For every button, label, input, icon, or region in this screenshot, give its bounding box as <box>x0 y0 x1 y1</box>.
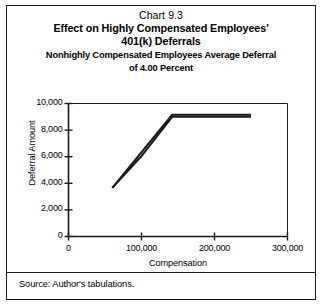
source-divider <box>7 272 315 273</box>
x-tick-label: 300,000 <box>253 243 322 253</box>
chart-number: Chart 9.3 <box>10 9 312 22</box>
y-tick-label: 2,000 <box>9 203 63 213</box>
y-axis-title: Deferral Amount <box>27 103 37 203</box>
chart-title-line1: Effect on Highly Compensated Employees' <box>10 22 312 35</box>
x-axis-title: Compensation <box>68 258 288 268</box>
source-note: Source: Author's tabulations. <box>19 279 134 289</box>
x-tick-label: 200,000 <box>180 243 250 253</box>
chart-figure: Chart 9.3 Effect on Highly Compensated E… <box>0 0 322 306</box>
figure-titles: Chart 9.3 Effect on Highly Compensated E… <box>10 9 312 74</box>
chart-subtitle-line2: of 4.00 Percent <box>10 62 312 74</box>
chart-subtitle-line1: Nonhighly Compensated Employees Average … <box>10 49 312 61</box>
x-tick-label: 0 <box>34 243 104 253</box>
x-tick-label: 100,000 <box>107 243 177 253</box>
y-tick-label: 0 <box>9 230 63 240</box>
chart-title-line2: 401(k) Deferrals <box>10 35 312 48</box>
